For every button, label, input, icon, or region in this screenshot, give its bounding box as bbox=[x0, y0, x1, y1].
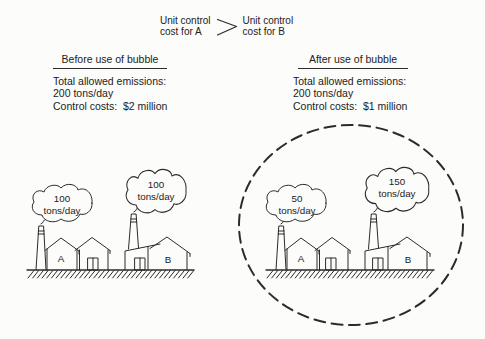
cloud-b-value: 150 bbox=[389, 176, 406, 187]
cloud-a-unit: tons/day bbox=[278, 205, 315, 216]
after-emissions-value: 200 tons/day bbox=[293, 87, 407, 99]
factory-b-label: B bbox=[165, 254, 172, 265]
bubble-boundary bbox=[239, 125, 463, 325]
cloud-a-value: 100 bbox=[54, 193, 71, 204]
adjacent-building-before bbox=[75, 238, 110, 271]
unit-cost-a-label: Unit control cost for A bbox=[160, 15, 211, 37]
adjacent-building-after bbox=[315, 238, 350, 271]
greater-than-icon bbox=[216, 17, 238, 37]
cloud-a-unit: tons/day bbox=[43, 205, 80, 216]
ground-hatching bbox=[267, 271, 433, 279]
after-title: After use of bubble bbox=[298, 53, 408, 69]
after-info: Total allowed emissions: 200 tons/day Co… bbox=[293, 75, 407, 112]
cost-inequality: Unit control cost for A Unit control cos… bbox=[160, 15, 293, 37]
factory-b-building bbox=[365, 237, 430, 270]
before-info: Total allowed emissions: 200 tons/day Co… bbox=[53, 75, 167, 112]
before-title: Before use of bubble bbox=[53, 53, 167, 69]
factory-a-smokestack bbox=[276, 226, 286, 270]
cloud-b-value: 100 bbox=[148, 179, 165, 190]
factory-a-smokestack bbox=[36, 226, 46, 270]
after-emissions-label: Total allowed emissions: bbox=[293, 75, 407, 87]
before-control-costs: Control costs: $2 million bbox=[53, 100, 167, 112]
before-emissions-value: 200 tons/day bbox=[53, 87, 167, 99]
factory-scene-before: A B 100 tons/day 100 tons/day bbox=[24, 160, 200, 286]
factory-b-building bbox=[125, 237, 190, 270]
after-control-costs: Control costs: $1 million bbox=[293, 100, 407, 112]
factory-scene-after: A B 50 tons/day 150 tons/day bbox=[236, 120, 468, 332]
factory-a-label: A bbox=[58, 253, 65, 264]
unit-cost-b-label: Unit control cost for B bbox=[243, 15, 294, 37]
cloud-a-value: 50 bbox=[292, 193, 303, 204]
factory-b-label: B bbox=[405, 254, 412, 265]
before-emissions-label: Total allowed emissions: bbox=[53, 75, 167, 87]
cloud-b-unit: tons/day bbox=[378, 188, 415, 199]
cloud-b-unit: tons/day bbox=[137, 191, 174, 202]
factory-a-label: A bbox=[298, 253, 305, 264]
ground-hatching bbox=[28, 271, 194, 279]
